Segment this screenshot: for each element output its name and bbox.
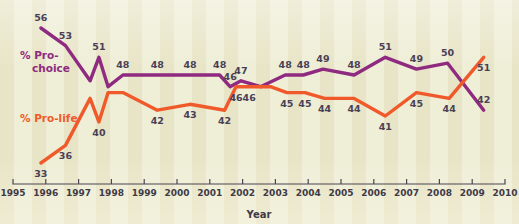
- x-axis-tick-label: 2006: [361, 188, 386, 198]
- x-axis-title: Year: [246, 209, 272, 220]
- data-label-pro-life: 44: [443, 103, 457, 114]
- data-label-pro-life: 43: [184, 109, 197, 120]
- data-label-pro-choice: 47: [234, 65, 247, 76]
- data-label-pro-choice: 42: [477, 94, 490, 105]
- data-label-pro-choice: 49: [410, 53, 423, 64]
- data-label-pro-life: 42: [151, 115, 164, 126]
- data-label-pro-life: 33: [34, 168, 47, 179]
- data-label-pro-choice: 48: [348, 59, 362, 70]
- x-axis-tick-label: 1999: [132, 188, 157, 198]
- x-axis-tick-label: 2003: [263, 188, 288, 198]
- data-label-pro-life: 45: [280, 98, 293, 109]
- x-axis-tick-label: 2009: [460, 188, 485, 198]
- data-label-pro-life: 44: [348, 103, 362, 114]
- data-label-pro-choice: 48: [297, 59, 311, 70]
- data-label-pro-life: 44: [318, 103, 332, 114]
- data-label-pro-life: 36: [59, 150, 73, 161]
- data-label-pro-choice: 53: [59, 30, 72, 41]
- legend-pro-choice-line2: choice: [32, 62, 70, 74]
- data-label-pro-life: 41: [379, 121, 392, 132]
- data-label-pro-life: 45: [410, 98, 423, 109]
- x-axis-line: [13, 179, 505, 184]
- x-axis-tick-label: 1995: [0, 188, 25, 198]
- x-axis-tick-label: 2008: [427, 188, 452, 198]
- legend-pro-choice-line1: % Pro-: [20, 49, 59, 61]
- x-axis-tick-label: 2002: [230, 188, 255, 198]
- x-axis-tick-label: 2004: [296, 188, 321, 198]
- data-label-pro-life: 51: [477, 62, 490, 73]
- data-label-pro-choice: 49: [316, 53, 329, 64]
- chart-container: 5653514848484846474848494851495042333640…: [0, 0, 519, 224]
- data-label-pro-life: 46: [243, 92, 257, 103]
- data-label-pro-choice: 48: [279, 59, 293, 70]
- data-labels-layer: 5653514848484846474848494851495042333640…: [34, 12, 490, 179]
- x-axis-tick-label: 2001: [197, 188, 222, 198]
- x-axis-tick-label: 1997: [66, 188, 91, 198]
- series-line-pro-life: [41, 57, 484, 163]
- x-axis-tick-label: 1996: [33, 188, 58, 198]
- legend-pro-life: % Pro-life: [20, 112, 78, 124]
- line-chart-plot: 5653514848484846474848494851495042333640…: [0, 0, 519, 224]
- data-label-pro-life: 46: [229, 92, 243, 103]
- x-axis: 1995199619971998199920002001200220032004…: [0, 179, 517, 198]
- x-axis-tick-label: 2005: [328, 188, 353, 198]
- x-axis-tick-label: 2000: [164, 188, 189, 198]
- x-axis-tick-label: 1998: [99, 188, 124, 198]
- x-axis-tick-label: 2010: [492, 188, 517, 198]
- data-label-pro-choice: 56: [34, 12, 48, 23]
- data-label-pro-choice: 48: [116, 59, 130, 70]
- data-label-pro-choice: 48: [184, 59, 198, 70]
- data-label-pro-choice: 50: [441, 47, 455, 58]
- series-layer: [41, 28, 484, 163]
- x-axis-tick-label: 2007: [394, 188, 419, 198]
- data-label-pro-life: 40: [92, 127, 106, 138]
- data-label-pro-choice: 51: [92, 41, 105, 52]
- data-label-pro-life: 45: [298, 98, 311, 109]
- data-label-pro-choice: 48: [151, 59, 165, 70]
- data-label-pro-choice: 48: [213, 59, 227, 70]
- data-label-pro-life: 42: [218, 115, 231, 126]
- data-label-pro-choice: 51: [379, 41, 392, 52]
